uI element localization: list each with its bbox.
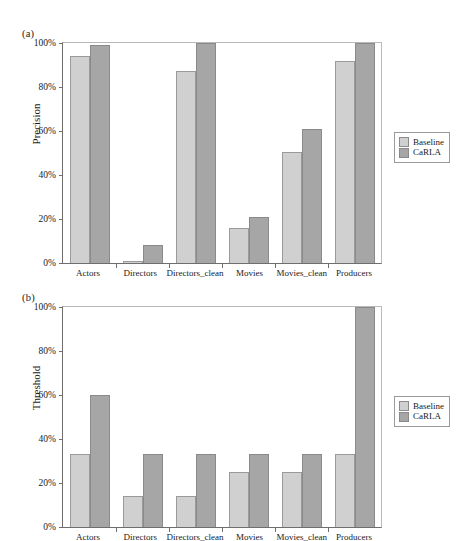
panel-b-x-axis-labels: ActorsDirectorsDirectors_cleanMoviesMovi… — [62, 532, 380, 541]
panel-b-y-tick: 60% — [39, 390, 63, 400]
bar-group — [222, 43, 275, 263]
panel-a-bar-groups — [63, 43, 381, 263]
x-axis-label-movies_clean: Movies_clean — [276, 532, 328, 541]
panel-b-bar-groups — [63, 307, 381, 527]
bar-carla — [196, 43, 216, 263]
legend-label: Baseline — [413, 137, 444, 147]
bar-baseline — [176, 71, 196, 264]
baseline-swatch-icon — [399, 137, 409, 147]
bar-group — [116, 307, 169, 527]
x-axis-label-directors_clean: Directors_clean — [166, 268, 223, 278]
bar-baseline — [282, 152, 302, 263]
bar-baseline — [335, 454, 355, 527]
bar-baseline — [123, 261, 143, 263]
bar-group — [169, 43, 222, 263]
panel-b-y-tick: 100% — [34, 302, 63, 312]
bar-group — [63, 43, 116, 263]
panel-a-y-tick: 40% — [39, 170, 63, 180]
bar-baseline — [229, 228, 249, 263]
bar-group — [63, 307, 116, 527]
panel-b-y-tick: 40% — [39, 434, 63, 444]
panel-a-plot-area: 0%20%40%60%80%100% — [62, 42, 382, 264]
bar-baseline — [282, 472, 302, 527]
x-axis-label-directors: Directors — [114, 268, 166, 278]
x-axis-label-producers: Producers — [328, 532, 380, 541]
x-axis-label-movies: Movies — [223, 532, 275, 541]
bar-baseline — [176, 496, 196, 527]
carla-swatch-icon — [399, 412, 409, 422]
panel-a-y-tick: 80% — [39, 82, 63, 92]
legend-item: Baseline — [399, 401, 444, 411]
figure-container: (a) Precision 0%20%40%60%80%100% ActorsD… — [0, 0, 465, 541]
bar-carla — [302, 454, 322, 527]
legend-label: Baseline — [413, 401, 444, 411]
panel-a-legend: BaselineCaRLA — [394, 132, 450, 163]
x-axis-label-directors_clean: Directors_clean — [166, 532, 223, 541]
panel-a-y-tick: 0% — [43, 258, 63, 268]
bar-group — [116, 43, 169, 263]
bar-carla — [302, 129, 322, 263]
x-axis-label-actors: Actors — [62, 268, 114, 278]
bar-group — [328, 307, 381, 527]
bar-group — [222, 307, 275, 527]
panel-b-plot-area: 0%20%40%60%80%100% — [62, 306, 382, 528]
bar-carla — [90, 395, 110, 527]
x-axis-label-directors: Directors — [114, 532, 166, 541]
bar-carla — [355, 43, 375, 263]
panel-b-y-tick: 20% — [39, 478, 63, 488]
legend-item: CaRLA — [399, 147, 444, 157]
panel-a-y-tick: 100% — [34, 38, 63, 48]
bar-carla — [249, 454, 269, 527]
bar-group — [169, 307, 222, 527]
legend-item: CaRLA — [399, 411, 444, 421]
bar-carla — [249, 217, 269, 263]
carla-swatch-icon — [399, 148, 409, 158]
bar-carla — [90, 45, 110, 263]
bar-baseline — [123, 496, 143, 527]
x-axis-label-producers: Producers — [328, 268, 380, 278]
panel-b-y-tick: 0% — [43, 522, 63, 532]
panel-a-x-axis-labels: ActorsDirectorsDirectors_cleanMoviesMovi… — [62, 268, 380, 278]
legend-item: Baseline — [399, 137, 444, 147]
bar-group — [275, 43, 328, 263]
panel-a-y-tick: 20% — [39, 214, 63, 224]
baseline-swatch-icon — [399, 401, 409, 411]
panel-a: (a) Precision 0%20%40%60%80%100% ActorsD… — [0, 22, 465, 280]
bar-group — [328, 43, 381, 263]
panel-a-y-tick: 60% — [39, 126, 63, 136]
panel-b: (b) Threshold 0%20%40%60%80%100% ActorsD… — [0, 286, 465, 541]
bar-baseline — [70, 56, 90, 263]
legend-label: CaRLA — [413, 411, 441, 421]
x-axis-label-actors: Actors — [62, 532, 114, 541]
panel-b-y-tick: 80% — [39, 346, 63, 356]
panel-a-tag: (a) — [22, 28, 34, 39]
x-axis-label-movies_clean: Movies_clean — [276, 268, 328, 278]
bar-baseline — [70, 454, 90, 527]
bar-baseline — [335, 61, 355, 263]
bar-carla — [143, 245, 163, 263]
legend-label: CaRLA — [413, 147, 441, 157]
bar-carla — [143, 454, 163, 527]
bar-carla — [355, 307, 375, 527]
bar-group — [275, 307, 328, 527]
bar-carla — [196, 454, 216, 527]
x-axis-label-movies: Movies — [223, 268, 275, 278]
panel-b-legend: BaselineCaRLA — [394, 396, 450, 427]
bar-baseline — [229, 472, 249, 527]
